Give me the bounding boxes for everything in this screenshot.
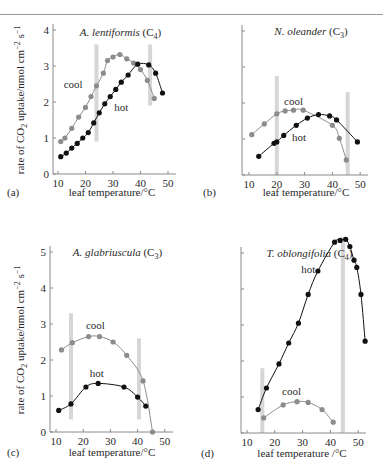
data-point-cool <box>117 52 122 57</box>
data-point-hot <box>96 381 101 386</box>
data-point-hot <box>316 112 321 117</box>
data-point-cool <box>110 54 115 59</box>
data-point-hot <box>69 145 74 150</box>
data-point-cool <box>145 78 150 83</box>
data-point-hot <box>135 62 140 67</box>
data-point-cool <box>301 108 306 113</box>
data-point-cool <box>105 58 110 63</box>
data-point-hot <box>135 394 140 399</box>
data-point-cool <box>86 334 91 339</box>
data-point-cool <box>69 126 74 131</box>
data-point-hot <box>347 244 352 249</box>
y-tick-label: 4 <box>41 282 47 294</box>
data-point-hot <box>296 321 301 326</box>
chart-title: A. lentiformis (C4) <box>79 26 162 41</box>
data-point-hot <box>58 154 63 159</box>
data-point-cool <box>76 115 81 120</box>
data-point-cool <box>262 121 267 126</box>
data-point-cool <box>62 135 67 140</box>
data-point-cool <box>294 399 299 404</box>
y-tick-label: 2 <box>44 96 50 108</box>
x-axis-label: leaf temperature/°C <box>263 186 350 198</box>
data-point-cool <box>319 407 324 412</box>
data-point-hot <box>327 113 332 118</box>
y-tick-label: 3 <box>41 318 47 330</box>
data-point-hot <box>332 240 337 245</box>
data-point-hot <box>276 361 281 366</box>
y-tick-label: 3 <box>44 60 50 72</box>
data-point-hot <box>281 133 286 138</box>
data-point-hot <box>264 385 269 390</box>
series-label-cool: cool <box>86 319 105 331</box>
y-tick-label: 0 <box>44 168 50 180</box>
data-point-hot <box>143 403 148 408</box>
y-tick-label: 2 <box>41 354 47 366</box>
series-label-hot: hot <box>90 367 104 379</box>
data-point-hot <box>305 116 310 121</box>
data-point-cool <box>337 136 342 141</box>
chart-title: N. oleander (C3) <box>273 25 348 40</box>
data-point-hot <box>97 110 102 115</box>
chart-title: T. oblongifolia (C4) <box>266 247 352 262</box>
temperature-range-bar <box>95 44 99 141</box>
x-axis-label: leaf temperature/°C <box>69 186 156 198</box>
data-point-cool <box>88 94 93 99</box>
series-label-cool: cool <box>284 95 303 107</box>
temperature-range-bar <box>275 76 279 175</box>
temperature-range-bar <box>148 44 152 105</box>
temperature-range-bar <box>341 237 345 433</box>
data-point-hot <box>113 87 118 92</box>
data-point-cool <box>274 111 279 116</box>
data-point-cool <box>261 415 266 420</box>
data-point-cool <box>291 108 296 113</box>
data-point-hot <box>355 139 360 144</box>
data-point-hot <box>91 120 96 125</box>
data-point-hot <box>354 265 359 270</box>
data-point-hot <box>294 123 299 128</box>
data-point-cool <box>138 67 143 72</box>
data-point-cool <box>330 123 335 128</box>
y-tick-label: 1 <box>41 390 47 402</box>
data-point-hot <box>126 72 131 77</box>
y-tick-label: 5 <box>41 246 47 258</box>
y-tick-label: 4 <box>44 24 50 36</box>
data-point-hot <box>153 71 158 76</box>
data-point-hot <box>343 237 348 242</box>
y-tick-label: 1 <box>44 132 50 144</box>
data-point-hot <box>83 384 88 389</box>
data-point-cool <box>331 420 336 425</box>
data-point-hot <box>108 94 113 99</box>
chart-panel-a: 012341020304050leaf temperature/°C(a)rat… <box>7 24 176 199</box>
data-point-hot <box>75 141 80 146</box>
x-tick-label: 10 <box>244 178 256 190</box>
data-point-cool <box>124 56 129 61</box>
data-point-hot <box>160 90 165 95</box>
data-point-cool <box>140 378 145 383</box>
series-label-hot: hot <box>301 263 315 275</box>
data-point-hot <box>358 292 363 297</box>
data-point-hot <box>351 258 356 263</box>
data-point-cool <box>111 339 116 344</box>
panel-label: (b) <box>203 186 216 199</box>
data-point-hot <box>363 339 368 344</box>
y-axis-label: rate of CO2 uptake/nmol cm−2 s−1 <box>13 26 29 174</box>
data-point-hot <box>119 80 124 85</box>
data-point-hot <box>146 62 151 67</box>
data-point-cool <box>94 83 99 88</box>
data-point-hot <box>80 135 85 140</box>
data-point-cool <box>306 400 311 405</box>
data-point-cool <box>124 353 129 358</box>
series-label-cool: cool <box>282 385 301 397</box>
panel-label: (d) <box>201 447 214 460</box>
temperature-range-bar <box>137 338 141 419</box>
x-axis-label: leaf temperature /°C <box>257 447 346 459</box>
y-tick-label: 0 <box>41 426 47 438</box>
chart-panel-d: 1020304050leaf temperature /°C(d)T. oblo… <box>201 237 368 460</box>
panel-label: (a) <box>7 186 20 199</box>
data-point-cool <box>344 157 349 162</box>
data-point-hot <box>86 130 91 135</box>
data-point-cool <box>281 402 286 407</box>
data-point-hot <box>256 407 261 412</box>
series-label-hot: hot <box>292 131 306 143</box>
data-point-cool <box>83 105 88 110</box>
